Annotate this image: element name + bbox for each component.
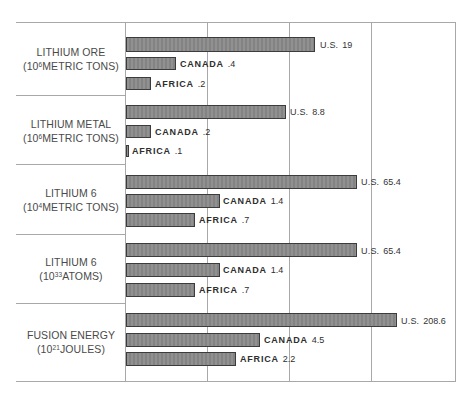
bar-label-us: U.S.65.4 (361, 245, 401, 257)
section-divider (16, 234, 126, 235)
gridline (289, 22, 290, 382)
bar-us-lithium-ore (126, 37, 315, 52)
section-divider (16, 95, 126, 96)
bar-label-canada: CANADA4.5 (264, 334, 324, 346)
category-name: LITHIUM 6 (16, 186, 126, 200)
bar-us-lithium-metal (126, 105, 286, 119)
category-name: FUSION ENERGY (16, 328, 126, 342)
category-label-lithium-metal: LITHIUM METAL (106METRIC TONS) (16, 117, 126, 145)
category-label-fusion-energy: FUSION ENERGY (1021JOULES) (16, 328, 126, 356)
bar-africa-lithium-6-tons (126, 213, 195, 227)
category-unit: (104METRIC TONS) (16, 200, 126, 214)
category-unit: (1021JOULES) (16, 342, 126, 356)
category-unit: (106METRIC TONS) (16, 59, 126, 73)
category-label-lithium-6-atoms: LITHIUM 6 (1033ATOMS) (16, 255, 126, 283)
bar-label-africa: AFRICA2.2 (240, 353, 295, 365)
bar-us-fusion-energy (126, 313, 397, 327)
bar-label-africa: AFRICA.2 (155, 78, 205, 90)
top-border (16, 22, 456, 23)
bar-africa-lithium-ore (126, 77, 151, 90)
bar-us-lithium-6-tons (126, 175, 357, 189)
gridline (371, 22, 372, 382)
bar-label-africa: AFRICA.1 (132, 145, 182, 157)
bar-label-africa: AFRICA.7 (199, 284, 249, 296)
bar-africa-lithium-6-atoms (126, 283, 195, 297)
section-divider (16, 164, 126, 165)
right-border (455, 22, 456, 382)
category-unit: (106METRIC TONS) (16, 131, 126, 145)
bar-label-canada: CANADA1.4 (223, 264, 283, 276)
category-name: LITHIUM METAL (16, 117, 126, 131)
bar-africa-lithium-metal (126, 145, 129, 157)
category-unit: (1033ATOMS) (16, 269, 126, 283)
bar-canada-lithium-6-tons (126, 194, 220, 208)
bar-label-canada: CANADA1.4 (223, 195, 283, 207)
bottom-border (16, 381, 456, 382)
bar-label-us: U.S.8.8 (290, 106, 325, 118)
bar-label-canada: CANADA.4 (180, 58, 235, 70)
category-label-lithium-6-tons: LITHIUM 6 (104METRIC TONS) (16, 186, 126, 214)
category-name: LITHIUM 6 (16, 255, 126, 269)
bar-label-africa: AFRICA.7 (199, 214, 249, 226)
bar-label-us: U.S.65.4 (361, 176, 401, 188)
bar-africa-fusion-energy (126, 352, 236, 366)
lithium-resources-bar-chart: LITHIUM ORE (106METRIC TONS) LITHIUM MET… (0, 0, 468, 402)
bar-canada-fusion-energy (126, 333, 260, 347)
bar-canada-lithium-6-atoms (126, 263, 220, 277)
category-name: LITHIUM ORE (16, 45, 126, 59)
section-divider (16, 303, 126, 304)
category-label-lithium-ore: LITHIUM ORE (106METRIC TONS) (16, 45, 126, 73)
bar-label-canada: CANADA.2 (155, 126, 210, 138)
bar-canada-lithium-ore (126, 57, 176, 70)
bar-canada-lithium-metal (126, 125, 151, 138)
bar-label-us: U.S.208.6 (401, 315, 446, 327)
bar-us-lithium-6-atoms (126, 243, 357, 257)
bar-label-us: U.S.19 (320, 39, 352, 51)
